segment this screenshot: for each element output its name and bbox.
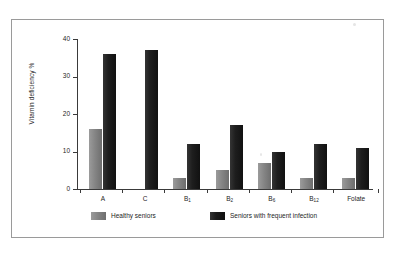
- bar-group: [256, 39, 287, 189]
- bar-healthy-seniors: [89, 129, 102, 189]
- bar-healthy-seniors: [258, 163, 271, 189]
- legend-swatch-seniors-with-frequent-infection: [210, 212, 225, 220]
- bar-chart-plot: Vitamin deficiency % 010203040 ACB1B2B6B…: [12, 20, 385, 239]
- bar-healthy-seniors: [300, 178, 313, 189]
- x-axis-label-b12: B12: [291, 196, 337, 203]
- chart-legend: Healthy seniors Seniors with frequent in…: [77, 212, 377, 226]
- bar-seniors-with-frequent-infection: [272, 152, 285, 190]
- x-axis-tick: [249, 189, 250, 193]
- x-axis-label-folate: Folate: [333, 196, 379, 203]
- x-axis-tick: [207, 189, 208, 193]
- x-axis-label-b6: B6: [249, 196, 295, 203]
- x-axis-tick: [80, 189, 81, 193]
- bar-seniors-with-frequent-infection: [187, 144, 200, 189]
- x-axis-label-c: C: [122, 196, 168, 203]
- x-axis-tick: [333, 189, 334, 193]
- y-axis-tick-label: 40: [56, 36, 70, 43]
- y-axis-tick-label: 20: [56, 111, 70, 118]
- bar-seniors-with-frequent-infection: [230, 125, 243, 189]
- y-axis-tick-label: 30: [56, 73, 70, 80]
- bar-group: [298, 39, 329, 189]
- bar-group: [129, 39, 160, 189]
- legend-item-seniors-with-frequent-infection: Seniors with frequent infection: [210, 212, 317, 220]
- legend-label-seniors-with-frequent-infection: Seniors with frequent infection: [230, 213, 317, 220]
- bar-group: [340, 39, 371, 189]
- bar-group: [171, 39, 202, 189]
- y-axis-tick-label: 0: [56, 186, 70, 193]
- bar-series-container: [78, 39, 373, 189]
- x-axis-label-b2: B2: [207, 196, 253, 203]
- x-axis-tick: [378, 189, 379, 193]
- bar-seniors-with-frequent-infection: [103, 54, 116, 189]
- bar-seniors-with-frequent-infection: [356, 148, 369, 189]
- y-axis-title: Vitamin deficiency %: [28, 44, 35, 144]
- legend-label-healthy-seniors: Healthy seniors: [111, 213, 156, 220]
- legend-swatch-healthy-seniors: [91, 212, 106, 220]
- x-axis-tick: [164, 189, 165, 193]
- x-axis-tick: [122, 189, 123, 193]
- x-axis-label-a: A: [80, 196, 126, 203]
- figure-frame: Vitamin deficiency % 010203040 ACB1B2B6B…: [11, 19, 384, 238]
- bar-group: [87, 39, 118, 189]
- legend-item-healthy-seniors: Healthy seniors: [91, 212, 156, 220]
- bar-group: [214, 39, 245, 189]
- bar-healthy-seniors: [216, 170, 229, 189]
- x-axis-tick: [291, 189, 292, 193]
- bar-healthy-seniors: [342, 178, 355, 189]
- bar-seniors-with-frequent-infection: [145, 50, 158, 189]
- x-axis-label-b1: B1: [164, 196, 210, 203]
- bar-healthy-seniors: [173, 178, 186, 189]
- y-axis-tick-label: 10: [56, 148, 70, 155]
- y-axis-tick: [73, 189, 78, 190]
- bar-seniors-with-frequent-infection: [314, 144, 327, 189]
